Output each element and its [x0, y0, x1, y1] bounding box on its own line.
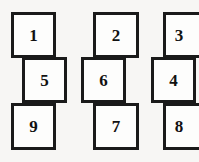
box-8[interactable]: 8 — [163, 103, 199, 150]
diagram-canvas: 1 5 9 2 6 7 3 4 8 — [0, 0, 199, 162]
box-label-1: 1 — [29, 27, 38, 44]
box-label-6: 6 — [99, 72, 108, 89]
box-7[interactable]: 7 — [93, 103, 139, 150]
box-label-7: 7 — [112, 118, 121, 135]
box-6[interactable]: 6 — [81, 57, 126, 103]
box-2[interactable]: 2 — [93, 12, 139, 58]
box-label-9: 9 — [29, 118, 38, 135]
box-3[interactable]: 3 — [163, 12, 199, 58]
box-label-8: 8 — [175, 118, 184, 135]
box-4[interactable]: 4 — [151, 57, 196, 103]
box-label-5: 5 — [40, 72, 49, 89]
box-5[interactable]: 5 — [22, 57, 67, 103]
box-label-2: 2 — [112, 27, 121, 44]
box-9[interactable]: 9 — [11, 103, 56, 150]
box-label-4: 4 — [169, 72, 178, 89]
box-label-3: 3 — [175, 27, 184, 44]
box-1[interactable]: 1 — [11, 12, 56, 58]
